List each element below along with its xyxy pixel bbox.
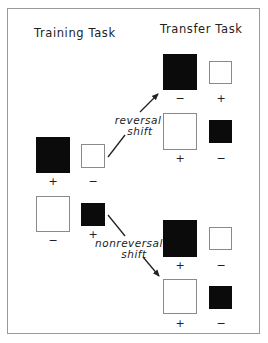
reversal-arrow-lower — [108, 135, 125, 157]
reversal-label-line2: shift — [112, 125, 168, 137]
nonreversal-label-line2: shift — [104, 248, 164, 260]
reversal-arrow-upper — [140, 94, 158, 112]
nonreversal-arrow-upper — [108, 215, 125, 236]
arrows-layer — [0, 0, 268, 343]
